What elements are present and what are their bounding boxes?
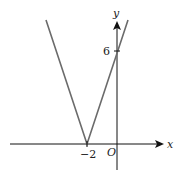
origin-label: O — [107, 146, 116, 159]
x-tick-label: −2 — [80, 148, 96, 161]
graph-figure: y x 6 −2 O — [0, 0, 179, 171]
y-tick-label: 6 — [103, 45, 110, 58]
graph-line — [46, 20, 128, 144]
x-axis-label: x — [167, 138, 174, 151]
y-axis-label: y — [112, 7, 120, 20]
